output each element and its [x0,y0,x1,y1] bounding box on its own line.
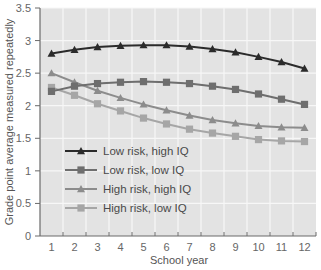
legend-label: High risk, low IQ [103,202,187,214]
square-marker [209,83,216,90]
legend-label: Low risk, low IQ [103,164,184,176]
x-tick-label: 1 [48,241,54,253]
y-axis-ticks: 00.511.522.533.5 [16,2,40,242]
square-marker [255,90,262,97]
y-tick-label: 0.5 [16,197,31,209]
square-marker [94,100,101,107]
x-tick-label: 8 [209,241,215,253]
x-axis-title: School year [150,254,208,266]
square-marker [71,92,78,99]
square-marker [77,204,84,211]
y-tick-label: 2.5 [16,67,31,79]
square-marker [278,137,285,144]
x-tick-label: 10 [252,241,264,253]
square-marker [209,129,216,136]
square-marker [71,83,78,90]
square-marker [301,138,308,145]
x-tick-label: 2 [71,241,77,253]
y-tick-label: 3.5 [16,2,31,14]
x-tick-label: 6 [163,241,169,253]
x-tick-label: 7 [186,241,192,253]
y-tick-label: 0 [25,230,31,242]
square-marker [140,114,147,121]
square-marker [301,101,308,108]
legend-label: High risk, high IQ [103,183,191,195]
square-marker [77,166,84,173]
square-marker [186,80,193,87]
square-marker [140,78,147,85]
x-tick-label: 3 [94,241,100,253]
square-marker [117,107,124,114]
y-tick-label: 3 [25,35,31,47]
x-tick-label: 11 [276,241,287,253]
square-marker [48,88,55,95]
y-tick-label: 2 [25,100,31,112]
x-tick-label: 12 [298,241,310,253]
x-tick-label: 4 [117,241,123,253]
square-marker [117,79,124,86]
x-tick-label: 9 [232,241,238,253]
square-marker [278,96,285,103]
legend-label: Low risk, high IQ [103,145,189,157]
square-marker [163,79,170,86]
square-marker [163,120,170,127]
square-marker [232,86,239,93]
square-marker [255,136,262,143]
square-marker [94,80,101,87]
y-tick-label: 1 [25,165,31,177]
square-marker [186,126,193,133]
y-axis-title: Grade point average measured repeatedly [3,18,15,225]
line-chart: 00.511.522.533.5 123456789101112 Low ris… [0,0,321,270]
square-marker [232,133,239,140]
x-tick-label: 5 [140,241,146,253]
y-tick-label: 1.5 [16,132,31,144]
